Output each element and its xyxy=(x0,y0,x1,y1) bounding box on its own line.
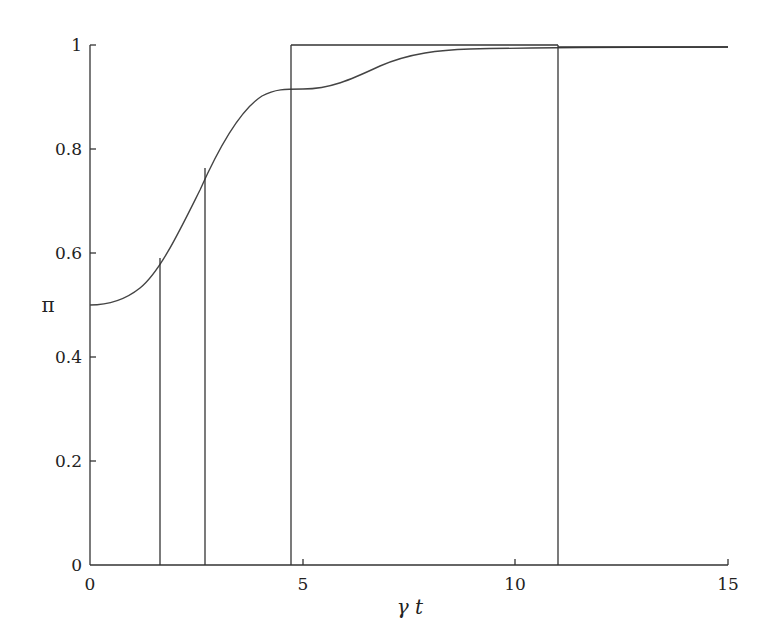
x-tick-labels: 0 5 10 15 xyxy=(85,574,739,594)
x-axis-label: γ t xyxy=(397,595,424,619)
y-tick-0.8: 0.8 xyxy=(55,139,82,159)
x-tick-5: 5 xyxy=(298,574,309,594)
y-tick-0: 0 xyxy=(71,555,82,575)
y-tick-0.6: 0.6 xyxy=(55,243,82,263)
x-tick-10: 10 xyxy=(504,574,526,594)
y-axis-label: π xyxy=(41,293,54,317)
y-tick-1: 1 xyxy=(71,35,82,55)
jump-trajectory xyxy=(160,45,728,565)
chart: 1 0.8 0.6 0.4 0.2 0 0 5 10 15 γ t π xyxy=(0,0,768,644)
smooth-curve xyxy=(90,47,728,305)
x-tick-15: 15 xyxy=(717,574,739,594)
y-tick-0.2: 0.2 xyxy=(55,451,82,471)
y-tick-0.4: 0.4 xyxy=(55,347,82,367)
axes xyxy=(90,45,728,565)
y-tick-labels: 1 0.8 0.6 0.4 0.2 0 xyxy=(55,35,82,575)
x-tick-0: 0 xyxy=(85,574,96,594)
